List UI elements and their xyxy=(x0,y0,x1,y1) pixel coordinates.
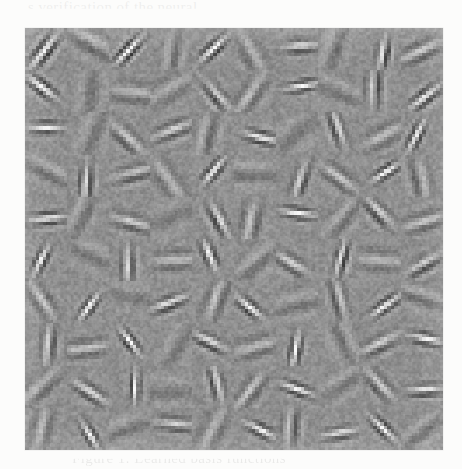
filter-tile xyxy=(25,197,67,239)
filter-tile-canvas xyxy=(67,155,109,197)
filter-tile-canvas xyxy=(192,112,234,154)
filter-tile-canvas xyxy=(67,112,109,154)
filter-tile-canvas xyxy=(25,323,67,365)
filter-tile-canvas xyxy=(25,408,67,450)
filter-tile xyxy=(25,408,67,450)
filter-tile-canvas xyxy=(67,70,109,112)
filter-tile xyxy=(67,239,109,281)
filter-tile-canvas xyxy=(234,323,276,365)
filter-tile-canvas xyxy=(318,366,360,408)
filter-tile-canvas xyxy=(25,197,67,239)
filter-tile-canvas xyxy=(401,366,443,408)
filter-tile xyxy=(359,70,401,112)
filter-tile xyxy=(234,155,276,197)
filter-tile-canvas xyxy=(359,323,401,365)
filter-tile-canvas xyxy=(109,281,151,323)
filter-tile-canvas xyxy=(401,70,443,112)
bleed-through-text-bottom: Figure 1: Learned basis functions xyxy=(72,450,286,467)
filter-tile-canvas xyxy=(192,366,234,408)
filter-tile-canvas xyxy=(234,112,276,154)
filter-tile xyxy=(359,408,401,450)
filter-tile-canvas xyxy=(67,281,109,323)
filter-tile-canvas xyxy=(67,197,109,239)
filter-tile xyxy=(192,408,234,450)
filter-tile-canvas xyxy=(25,28,67,70)
filter-tile xyxy=(67,112,109,154)
filter-tile-canvas xyxy=(109,70,151,112)
filter-tile-canvas xyxy=(192,281,234,323)
filter-tile-canvas xyxy=(109,408,151,450)
filter-tile xyxy=(359,281,401,323)
filter-tile xyxy=(25,323,67,365)
filter-tile-canvas xyxy=(67,366,109,408)
filter-tile-canvas xyxy=(150,366,192,408)
filter-tile xyxy=(401,366,443,408)
filter-tile-canvas xyxy=(276,70,318,112)
filter-tile xyxy=(318,281,360,323)
filter-tile xyxy=(276,366,318,408)
learned-filter-grid-figure xyxy=(25,28,443,450)
filter-tile-canvas xyxy=(318,408,360,450)
filter-tile xyxy=(67,281,109,323)
filter-tile-canvas xyxy=(276,239,318,281)
filter-tile xyxy=(109,366,151,408)
filter-tile xyxy=(276,155,318,197)
filter-tile xyxy=(192,28,234,70)
filter-tile-canvas xyxy=(359,70,401,112)
filter-tile xyxy=(192,155,234,197)
filter-tile xyxy=(276,197,318,239)
filter-tile-canvas xyxy=(150,28,192,70)
filter-tile-canvas xyxy=(192,155,234,197)
filter-tile-canvas xyxy=(276,155,318,197)
filter-tile xyxy=(150,323,192,365)
filter-tile-canvas xyxy=(318,155,360,197)
filter-tile-canvas xyxy=(359,408,401,450)
filter-tile xyxy=(359,323,401,365)
filter-tile-canvas xyxy=(401,408,443,450)
filter-tile-canvas xyxy=(109,366,151,408)
filter-tile xyxy=(150,197,192,239)
filter-tile xyxy=(401,28,443,70)
filter-tile-canvas xyxy=(150,408,192,450)
filter-tile-canvas xyxy=(359,281,401,323)
filter-tile xyxy=(67,28,109,70)
filter-tile-canvas xyxy=(25,366,67,408)
filter-tile-canvas xyxy=(67,28,109,70)
filter-tile xyxy=(150,70,192,112)
filter-tile xyxy=(150,155,192,197)
filter-tile xyxy=(234,366,276,408)
filter-tile-canvas xyxy=(401,281,443,323)
filter-tile xyxy=(359,366,401,408)
filter-tile-canvas xyxy=(234,239,276,281)
filter-tile-canvas xyxy=(234,197,276,239)
filter-tile xyxy=(234,281,276,323)
filter-tile xyxy=(359,112,401,154)
filter-tile-canvas xyxy=(276,112,318,154)
filter-tile xyxy=(318,70,360,112)
filter-tile xyxy=(67,408,109,450)
filter-tile xyxy=(109,239,151,281)
filter-tile-canvas xyxy=(192,239,234,281)
filter-tile xyxy=(318,155,360,197)
filter-tile xyxy=(276,112,318,154)
filter-tile xyxy=(25,239,67,281)
filter-tile xyxy=(318,408,360,450)
filter-tile xyxy=(25,366,67,408)
filter-tile xyxy=(109,408,151,450)
filter-tile-canvas xyxy=(276,281,318,323)
filter-tile xyxy=(401,155,443,197)
filter-tile xyxy=(359,239,401,281)
filter-tile-canvas xyxy=(192,323,234,365)
filter-tile xyxy=(150,366,192,408)
filter-tile-canvas xyxy=(401,155,443,197)
filter-tile-canvas xyxy=(234,70,276,112)
filter-tile-canvas xyxy=(67,408,109,450)
filter-tile xyxy=(67,155,109,197)
filter-tile-canvas xyxy=(401,197,443,239)
filter-tile-canvas xyxy=(401,239,443,281)
filter-tile xyxy=(67,323,109,365)
filter-tile xyxy=(150,281,192,323)
filter-tile-canvas xyxy=(359,239,401,281)
filter-tile-canvas xyxy=(109,239,151,281)
filter-tile-canvas xyxy=(401,112,443,154)
